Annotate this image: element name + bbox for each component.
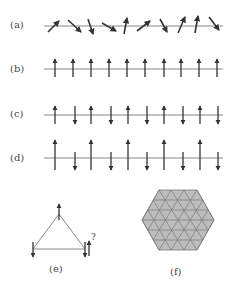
panel-a-spins: [44, 16, 223, 34]
panel-f-hexagon: [142, 190, 214, 250]
panel-b-spins: [44, 59, 223, 77]
spin-diagram: [0, 0, 235, 286]
panel-e-triangle: [33, 204, 89, 257]
panel-c-spins: [44, 106, 223, 124]
panel-d-spins: [44, 140, 223, 170]
